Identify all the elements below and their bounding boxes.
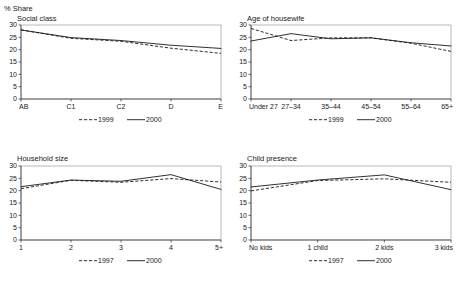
x-tick-label: Under 27 xyxy=(249,103,278,110)
y-tick-label: 0 xyxy=(13,95,17,102)
chart-legend: 19972000 xyxy=(309,257,392,264)
chart-panels: Social class051015202530ABC1C2DE19992000… xyxy=(9,14,453,264)
y-tick-label: 20 xyxy=(9,46,17,53)
chart-panel-top-left: Social class051015202530ABC1C2DE19992000 xyxy=(9,14,223,123)
chart-panel-bottom-right: Child presence051015202530No kids1 child… xyxy=(239,154,453,264)
panel-title: Household size xyxy=(17,154,68,163)
x-tick-label: 55–64 xyxy=(401,103,421,110)
legend-label-1999: 1999 xyxy=(328,116,344,123)
x-tick-label: 27–34 xyxy=(281,103,301,110)
chart-panel-top-right: Age of housewife051015202530Under 2727–3… xyxy=(239,14,453,123)
y-tick-label: 15 xyxy=(239,58,247,65)
legend-label-1999: 1999 xyxy=(98,116,114,123)
legend-label-1997: 1997 xyxy=(328,257,344,264)
y-tick-label: 15 xyxy=(9,58,17,65)
x-tick-label: C1 xyxy=(67,103,76,110)
series-line-1999 xyxy=(21,30,221,53)
x-tick-label: C2 xyxy=(117,103,126,110)
legend-label-2000: 2000 xyxy=(376,116,392,123)
y-tick-label: 30 xyxy=(239,162,247,169)
plot-frame xyxy=(251,25,451,99)
panel-title: Age of housewife xyxy=(247,14,305,23)
unit-label: % Share xyxy=(4,4,33,13)
y-tick-label: 5 xyxy=(13,83,17,90)
x-tick-label: 4 xyxy=(169,244,173,251)
y-tick-label: 10 xyxy=(9,212,17,219)
x-tick-label: No kids xyxy=(249,244,273,251)
panel-title: Child presence xyxy=(247,154,297,163)
y-tick-label: 5 xyxy=(243,224,247,231)
y-tick-label: 10 xyxy=(239,212,247,219)
chart-legend: 19992000 xyxy=(79,116,162,123)
series-line-2000 xyxy=(251,34,451,46)
y-tick-label: 30 xyxy=(239,21,247,28)
series-line-2000 xyxy=(251,175,451,190)
x-tick-label: 2 kids xyxy=(375,244,394,251)
y-tick-label: 25 xyxy=(239,34,247,41)
panel-title: Social class xyxy=(17,14,57,23)
y-tick-label: 25 xyxy=(9,34,17,41)
x-tick-label: 2 xyxy=(69,244,73,251)
x-tick-label: 3 kids xyxy=(435,244,454,251)
chart-legend: 19992000 xyxy=(309,116,392,123)
x-tick-label: 1 xyxy=(19,244,23,251)
y-tick-label: 25 xyxy=(239,175,247,182)
legend-label-1997: 1997 xyxy=(98,257,114,264)
x-tick-label: E xyxy=(218,103,223,110)
series-line-2000 xyxy=(21,30,221,49)
y-tick-label: 15 xyxy=(9,199,17,206)
x-tick-label: 35–44 xyxy=(321,103,341,110)
y-tick-label: 30 xyxy=(9,21,17,28)
x-tick-label: 1 child xyxy=(308,244,328,251)
y-tick-label: 25 xyxy=(9,175,17,182)
chart-panel-bottom-left: Household size05101520253012345+19972000 xyxy=(9,154,223,264)
multi-panel-line-chart-figure: % Share Social class051015202530ABC1C2DE… xyxy=(0,0,460,282)
legend-label-2000: 2000 xyxy=(376,257,392,264)
chart-legend: 19972000 xyxy=(79,257,162,264)
y-tick-label: 15 xyxy=(239,199,247,206)
y-tick-label: 10 xyxy=(9,71,17,78)
y-tick-label: 5 xyxy=(243,83,247,90)
y-tick-label: 20 xyxy=(239,46,247,53)
x-tick-label: 3 xyxy=(119,244,123,251)
y-tick-label: 20 xyxy=(9,187,17,194)
x-tick-label: AB xyxy=(19,103,29,110)
series-line-1997 xyxy=(251,179,451,191)
y-tick-label: 5 xyxy=(13,224,17,231)
series-line-1999 xyxy=(251,28,451,51)
x-tick-label: 65+ xyxy=(441,103,453,110)
plot-frame xyxy=(21,166,221,240)
y-tick-label: 10 xyxy=(239,71,247,78)
legend-label-2000: 2000 xyxy=(146,116,162,123)
y-tick-label: 0 xyxy=(243,236,247,243)
x-tick-label: D xyxy=(168,103,173,110)
y-tick-label: 20 xyxy=(239,187,247,194)
legend-label-2000: 2000 xyxy=(146,257,162,264)
plot-frame xyxy=(21,25,221,99)
x-tick-label: 5+ xyxy=(215,244,223,251)
y-tick-label: 0 xyxy=(243,95,247,102)
y-tick-label: 30 xyxy=(9,162,17,169)
x-tick-label: 45–54 xyxy=(361,103,381,110)
y-tick-label: 0 xyxy=(13,236,17,243)
